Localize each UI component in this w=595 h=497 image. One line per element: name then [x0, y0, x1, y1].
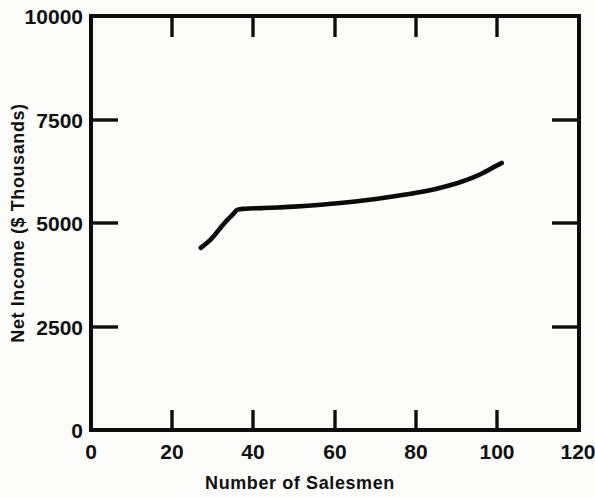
- y-axis-tick-labels: 10000 7500 5000 2500 0: [25, 5, 83, 442]
- plot-frame: [91, 16, 579, 430]
- x-axis-tick-marks-bottom: [91, 410, 497, 430]
- y-axis-title: Net Income ($ Thousands): [8, 103, 28, 342]
- x-tick-label-20: 20: [160, 440, 183, 463]
- y-tick-label-0: 0: [71, 419, 83, 442]
- x-tick-label-120: 120: [560, 440, 595, 463]
- y-tick-label-5000: 5000: [36, 212, 83, 235]
- x-tick-label-80: 80: [404, 440, 427, 463]
- x-tick-label-40: 40: [241, 440, 264, 463]
- y-axis-tick-marks-right: [552, 120, 579, 327]
- x-tick-label-0: 0: [85, 440, 97, 463]
- chart-figure: 10000 7500 5000 2500 0 0 20 40 60 80 100…: [0, 0, 595, 497]
- chart-canvas: 10000 7500 5000 2500 0 0 20 40 60 80 100…: [0, 0, 595, 497]
- x-axis-tick-marks-top: [172, 16, 497, 37]
- data-series-group: [201, 163, 502, 248]
- axis-box: [91, 16, 579, 430]
- y-tick-label-10000: 10000: [25, 5, 83, 28]
- y-tick-label-2500: 2500: [36, 316, 83, 339]
- y-tick-label-7500: 7500: [36, 109, 83, 132]
- net-income-curve: [201, 163, 502, 248]
- x-tick-label-60: 60: [323, 440, 346, 463]
- y-axis-tick-marks-left: [91, 120, 118, 327]
- x-tick-label-100: 100: [479, 440, 514, 463]
- x-axis-title: Number of Salesmen: [205, 473, 395, 493]
- x-axis-tick-labels: 0 20 40 60 80 100 120: [85, 440, 595, 463]
